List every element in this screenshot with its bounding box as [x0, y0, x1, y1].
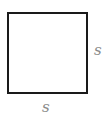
side-length-label-right: s [94, 43, 102, 58]
square-shape [7, 12, 88, 94]
side-length-label-bottom: s [42, 100, 50, 115]
